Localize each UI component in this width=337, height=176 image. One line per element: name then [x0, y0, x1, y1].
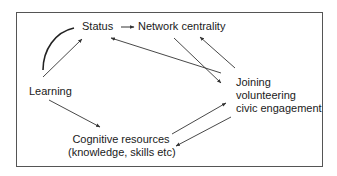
- node-joining: Joining volunteering civic engagement: [236, 76, 322, 115]
- node-cognitive-line-1: Cognitive resources: [68, 133, 174, 146]
- edge-learning-to-cognitive: [49, 100, 100, 127]
- node-joining-line-1: Joining: [236, 76, 322, 89]
- node-learning: Learning: [29, 85, 72, 98]
- node-network-centrality: Network centrality: [138, 20, 225, 33]
- edge-joining-to-network: [200, 37, 235, 68]
- node-joining-line-3: civic engagement: [236, 102, 322, 115]
- edge-learning-to-status: [43, 39, 82, 77]
- node-joining-line-2: volunteering: [236, 89, 322, 102]
- node-status: Status: [82, 20, 113, 33]
- node-cognitive-resources: Cognitive resources (knowledge, skills e…: [68, 133, 174, 159]
- edge-joining-to-cognitive: [176, 117, 231, 146]
- node-cognitive-line-2: (knowledge, skills etc): [68, 146, 174, 159]
- edge-cognitive-to-joining: [172, 103, 226, 134]
- edge-learning-status-curve: [43, 28, 74, 70]
